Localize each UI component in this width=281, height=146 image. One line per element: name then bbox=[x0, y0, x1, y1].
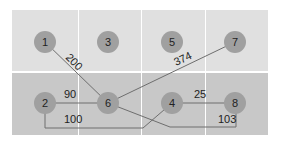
node-3: 3 bbox=[97, 31, 119, 53]
edge-weight-label: 103 bbox=[218, 113, 236, 125]
edge-weight-label: 100 bbox=[64, 113, 82, 125]
edge-weight-label: 25 bbox=[194, 88, 206, 100]
graph-diagram: 2003749025100103 13572648 bbox=[0, 0, 281, 146]
node-label: 7 bbox=[232, 36, 238, 48]
node-4: 4 bbox=[161, 92, 183, 114]
graph-canvas: 2003749025100103 13572648 bbox=[0, 0, 281, 146]
node-label: 5 bbox=[169, 36, 175, 48]
node-label: 4 bbox=[169, 97, 175, 109]
node-label: 2 bbox=[42, 97, 48, 109]
node-6: 6 bbox=[97, 92, 119, 114]
node-8: 8 bbox=[224, 92, 246, 114]
node-label: 8 bbox=[232, 97, 238, 109]
node-label: 3 bbox=[105, 36, 111, 48]
node-2: 2 bbox=[34, 92, 56, 114]
node-7: 7 bbox=[224, 31, 246, 53]
node-label: 6 bbox=[105, 97, 111, 109]
node-1: 1 bbox=[34, 31, 56, 53]
node-label: 1 bbox=[42, 36, 48, 48]
node-5: 5 bbox=[161, 31, 183, 53]
edge-weight-label: 90 bbox=[64, 88, 76, 100]
